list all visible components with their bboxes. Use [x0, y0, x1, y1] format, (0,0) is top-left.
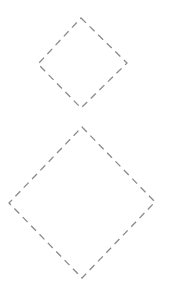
diamond-small-shape [38, 18, 127, 108]
diagram-svg [0, 0, 170, 294]
diagram-canvas [0, 0, 170, 294]
diamond-large-shape [9, 127, 155, 278]
